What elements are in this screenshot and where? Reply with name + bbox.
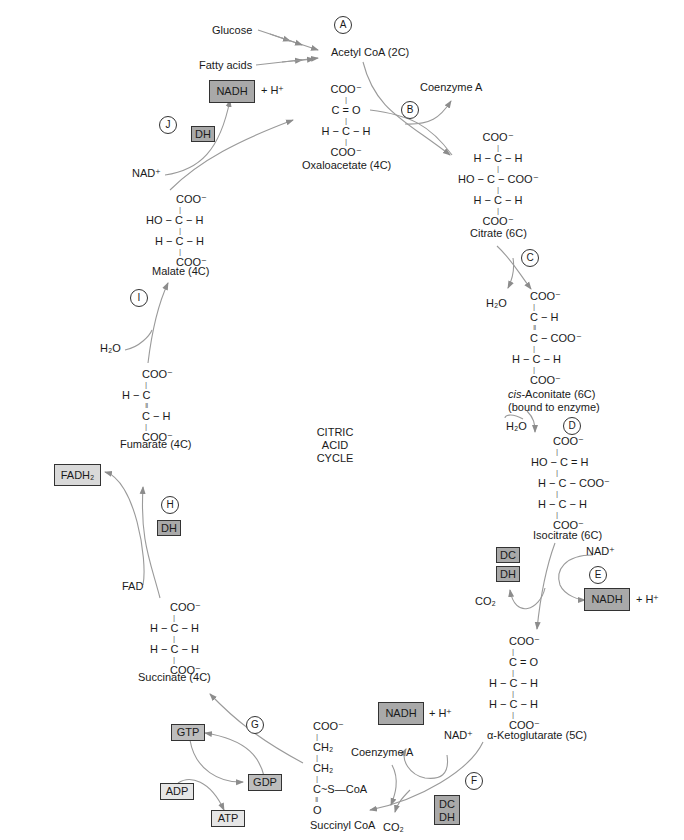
struct-row: H − C − COO⁻ [525,476,615,491]
dc-label-f: DC [435,798,459,811]
struct-row: HO − C − H [146,213,206,228]
alpha-ketoglutarate-structure: COO⁻ | C = O | H − C − H | H − C − H | C… [485,634,545,733]
struct-row: H − C − H [525,497,615,512]
struct-row: H − C − H [505,352,585,367]
struct-row: H − C − H [485,697,545,712]
citrate-structure: COO⁻ | H − C − H | HO − C − COO⁻ | H − C… [458,130,538,229]
malate-name: Malate (4C) [152,266,209,277]
h2o-i-label: H₂O [100,343,121,354]
struct-row: COO⁻ [313,719,373,734]
cis-aconitate-name: cis-Aconitate (6C) [508,389,595,400]
struct-row: CH₂ [313,740,373,755]
nad-plus-label-j: NAD⁺ [132,168,161,179]
h-plus-label-e: + H⁺ [636,594,659,605]
glucose-label: Glucose [212,25,252,36]
dh-enzyme-box-e: DH [496,566,520,582]
dh-enzyme-box-h: DH [157,520,181,536]
struct-row: COO⁻ [505,289,585,304]
isocitrate-structure: COO⁻ | HO − C = H | H − C − COO⁻ | H − C… [525,434,615,533]
step-f-marker: F [465,772,483,790]
struct-row: H − C [120,388,180,403]
malate-structure: COO⁻ | HO − C − H | H − C − H | COO⁻ [146,192,206,270]
step-a-marker: A [334,16,352,34]
nadh-box-j: NADH [209,80,255,103]
cis-prefix: cis [508,388,521,400]
alpha-ketoglutarate-name: α-Ketoglutarate (5C) [487,730,587,741]
struct-row: CH₂ [313,761,373,776]
step-b-marker: B [401,101,419,119]
fadh2-box: FADH₂ [54,464,101,486]
atp-box: ATP [211,810,245,827]
struct-row: H − C − H [146,234,206,249]
cis-aconitate-subtitle: (bound to enzyme) [508,402,600,413]
step-h-marker: H [161,496,179,514]
oxaloacetate-name: Oxaloacetate (4C) [302,160,391,171]
step-c-marker: C [521,249,539,267]
step-g-marker: G [246,716,264,734]
struct-row: C − H [505,310,585,325]
nadh-box-e: NADH [584,588,630,611]
succinyl-coa-name: Succinyl CoA [310,820,375,831]
cycle-title: CITRIC ACID CYCLE [305,426,365,465]
step-j-marker: J [159,116,177,134]
isocitrate-name: Isocitrate (6C) [533,530,602,541]
h2o-c-label: H₂O [486,298,507,309]
struct-row: COO⁻ [146,192,206,207]
dh-enzyme-box-j: DH [191,126,215,142]
struct-row: C = O [485,655,545,670]
fumarate-structure: COO⁻ | H − C ‖ C − H | COO⁻ [120,367,180,445]
gdp-box: GDP [248,774,282,791]
h2o-d-label: H₂O [506,421,527,432]
oxaloacetate-structure: COO⁻ | C = O | H − C − H | COO⁻ [318,82,374,160]
acetyl-coa-label: Acetyl CoA (2C) [331,47,409,58]
struct-row: O [313,803,373,818]
struct-row: C − COO⁻ [505,331,585,346]
coenzyme-a-label-b: Coenzyme A [420,82,482,93]
struct-row: C − H [120,409,180,424]
h-plus-label-f: + H⁺ [429,708,452,719]
co2-label-e: CO₂ [475,596,496,607]
struct-row: COO⁻ [318,145,374,160]
cycle-title-line-2: ACID [305,439,365,452]
cycle-title-line-1: CITRIC [305,426,365,439]
step-e-marker: E [589,566,607,584]
fumarate-name: Fumarate (4C) [120,439,192,450]
adp-box: ADP [160,783,194,800]
nadh-box-f: NADH [378,702,424,725]
cis-aconitate-name-rest: -Aconitate (6C) [521,388,595,400]
step-i-marker: I [130,289,148,307]
struct-row: H − C − H [485,676,545,691]
co2-label-f: CO₂ [383,822,404,833]
succinate-name: Succinate (4C) [138,672,211,683]
h-plus-label-j: + H⁺ [261,85,284,96]
fad-label: FAD [122,581,143,592]
struct-row: COO⁻ [505,373,585,388]
cis-aconitate-structure: COO⁻ | C − H ‖ C − COO⁻ | H − C − H | CO… [505,289,585,388]
struct-row: COO⁻ [525,434,615,449]
citrate-name: Citrate (6C) [470,228,527,239]
dh-label-f: DH [435,811,459,824]
gtp-box: GTP [171,724,205,741]
dc-dh-enzyme-box-f: DC DH [434,795,460,825]
nad-plus-label-f: NAD⁺ [444,730,473,741]
struct-row: C~S—CoA [313,782,373,797]
struct-row: HO − C = H [525,455,615,470]
struct-row: COO⁻ [120,367,180,382]
nad-plus-label-e: NAD⁺ [586,546,615,557]
succinyl-coa-structure: COO⁻ | CH₂ | CH₂ | C~S—CoA ‖ O [313,719,373,818]
succinate-structure: COO⁻ | H − C − H | H − C − H | COO⁻ [148,600,198,678]
fatty-acids-label: Fatty acids [199,60,252,71]
step-d-marker: D [563,417,581,435]
struct-row: COO⁻ [485,634,545,649]
cycle-title-line-3: CYCLE [305,452,365,465]
dc-enzyme-box-e: DC [496,547,520,563]
